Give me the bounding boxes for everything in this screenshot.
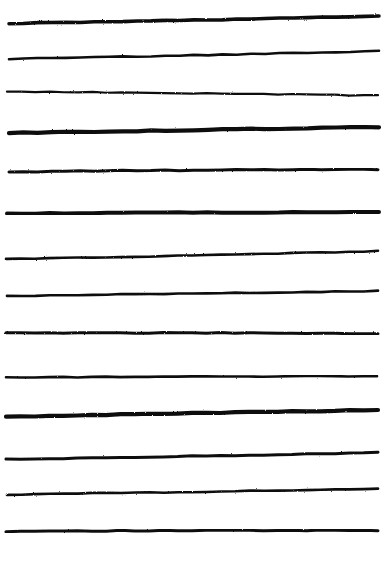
ink-strokes-layer [0, 0, 385, 562]
paper-background [0, 0, 385, 562]
ink-stroke [7, 212, 379, 214]
ink-stroke [6, 332, 378, 333]
drawing-canvas [0, 0, 385, 562]
ink-stroke [6, 530, 378, 532]
